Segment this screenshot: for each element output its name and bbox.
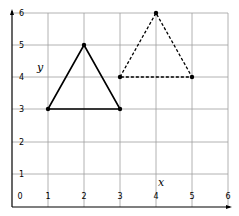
vertex-point	[118, 75, 122, 79]
x-tick-6: 6	[225, 192, 230, 201]
x-tick-0: 0	[17, 192, 22, 201]
y-tick-1: 1	[19, 170, 24, 179]
vertex-point	[118, 107, 122, 111]
vertex-point	[82, 43, 86, 47]
y-axis-arrow-icon	[10, 9, 14, 15]
x-axis-label: x	[158, 176, 165, 189]
vertex-point	[190, 75, 194, 79]
vertex-point	[154, 11, 158, 15]
y-tick-2: 2	[19, 138, 24, 147]
x-tick-3: 3	[117, 192, 122, 201]
y-tick-3: 3	[19, 105, 24, 114]
coordinate-plane: 0 1 2 3 4 5 6 1 2 3 4 5 6 y x	[0, 0, 239, 216]
x-tick-1: 1	[45, 192, 50, 201]
x-tick-2: 2	[81, 192, 86, 201]
y-tick-6: 6	[19, 9, 24, 18]
x-tick-5: 5	[189, 192, 194, 201]
x-axis-arrow-icon	[226, 205, 232, 209]
vertex-point	[46, 107, 50, 111]
y-axis-label: y	[36, 61, 44, 74]
y-tick-4: 4	[19, 73, 24, 82]
x-tick-4: 4	[153, 192, 158, 201]
y-tick-5: 5	[19, 41, 24, 50]
